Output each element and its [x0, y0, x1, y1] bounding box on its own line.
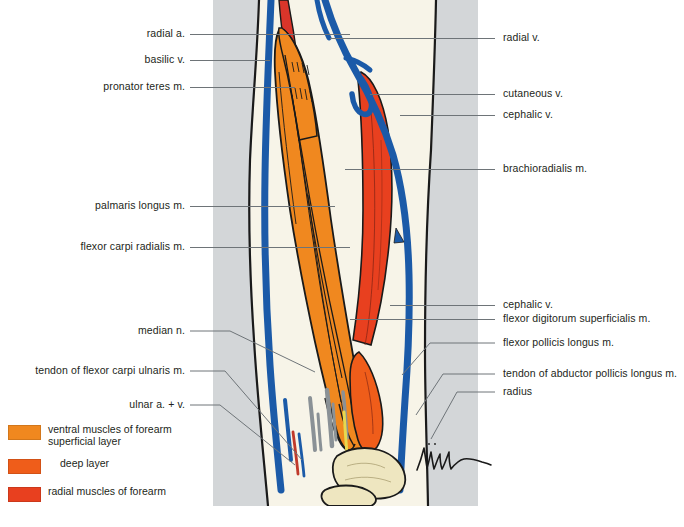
- leader-basilic-v: [190, 60, 270, 61]
- label-radial-v: radial v.: [503, 32, 540, 43]
- forearm-dissection-illustration: [213, 0, 478, 506]
- leader-palmaris-longus-m: [190, 206, 335, 207]
- label-ulnar-a-v: ulnar a. + v.: [0, 399, 185, 410]
- leader-cutaneous-v: [370, 94, 495, 95]
- artist-signature: [414, 440, 494, 476]
- legend-swatch-ventral-superficial: [8, 425, 41, 440]
- label-brachioradialis-m: brachioradialis m.: [503, 163, 587, 174]
- legend-item-ventral-superficial: ventral muscles of forearm superficial l…: [8, 423, 208, 457]
- legend-label-deep-layer: deep layer: [60, 457, 109, 469]
- leader-flexor-digitorum-superficialis-m: [350, 319, 495, 320]
- illustration-panel: [213, 0, 478, 506]
- label-median-n: median n.: [0, 325, 185, 336]
- leader-brachioradialis-m: [345, 169, 495, 170]
- legend-label-radial-muscles: radial muscles of forearm: [48, 485, 166, 497]
- leader-radial-a: [190, 34, 350, 35]
- label-cephalic-v-lower: cephalic v.: [503, 299, 553, 310]
- leader-cephalic-v-upper: [400, 115, 495, 116]
- legend-label-ventral-superficial: ventral muscles of forearm superficial l…: [48, 423, 172, 447]
- label-pronator-teres-m: pronator teres m.: [0, 81, 185, 92]
- legend-item-radial-muscles: radial muscles of forearm: [8, 485, 208, 513]
- label-palmaris-longus-m: palmaris longus m.: [0, 200, 185, 211]
- legend-swatch-deep-layer: [8, 459, 41, 474]
- leader-pronator-teres-m: [190, 87, 295, 88]
- label-flexor-pollicis-longus-m: flexor pollicis longus m.: [503, 337, 614, 348]
- leader-cephalic-v-lower: [390, 305, 495, 306]
- leader-radial-v: [330, 38, 495, 39]
- leader-flexor-carpi-radialis-m: [190, 247, 350, 248]
- label-basilic-v: basilic v.: [0, 54, 185, 65]
- label-radius: radius: [503, 386, 532, 397]
- label-flexor-digitorum-superficialis-m: flexor digitorum superficialis m.: [503, 313, 650, 324]
- legend: ventral muscles of forearm superficial l…: [8, 423, 208, 513]
- label-cutaneous-v: cutaneous v.: [503, 88, 563, 99]
- legend-swatch-radial-muscles: [8, 487, 41, 502]
- label-radial-a: radial a.: [0, 28, 185, 39]
- label-cephalic-v-upper: cephalic v.: [503, 109, 553, 120]
- legend-item-deep-layer: deep layer: [8, 457, 208, 485]
- label-tendon-of-flexor-carpi-ulnaris-m: tendon of flexor carpi ulnaris m.: [0, 365, 185, 376]
- label-flexor-carpi-radialis-m: flexor carpi radialis m.: [0, 241, 185, 252]
- label-tendon-of-abductor-pollicis-longus-m: tendon of abductor pollicis longus m.: [503, 368, 677, 379]
